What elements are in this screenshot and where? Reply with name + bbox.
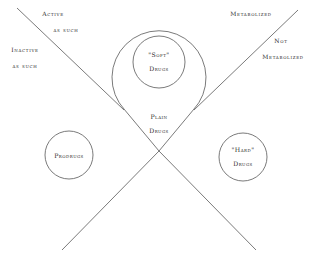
active-as-such-label-line2: as such xyxy=(52,26,78,33)
inactive-as-such-label-line1: Inactive xyxy=(11,46,38,53)
plain-drugs-label-line2: Drugs xyxy=(149,127,169,134)
hard-drugs-label-line2: Drugs xyxy=(233,160,253,167)
active-as-such-label-line1: Active xyxy=(41,10,64,17)
drug-classification-diagram: Plain Drugs "Soft" Drugs Prodrugs "Hard"… xyxy=(0,0,319,259)
diagram-canvas: Plain Drugs "Soft" Drugs Prodrugs "Hard"… xyxy=(0,0,319,259)
soft-drugs-label-line2: Drugs xyxy=(149,65,169,72)
hard-drugs-circle xyxy=(219,133,267,181)
prodrugs-label-line1: Prodrugs xyxy=(54,152,84,159)
soft-drugs-circle xyxy=(133,36,185,88)
axis-line-upper-left xyxy=(17,8,124,110)
not-metabolized-label-line1: Not xyxy=(274,37,287,44)
hard-drugs-label-line1: "Hard" xyxy=(232,146,255,153)
metabolized-label-line1: Metabolized xyxy=(230,10,272,17)
inactive-as-such-label-line2: as such xyxy=(11,62,37,69)
soft-drugs-label-line1: "Soft" xyxy=(148,51,169,58)
not-metabolized-label-line2: Metabolized xyxy=(262,53,304,60)
axis-line-upper-right xyxy=(194,10,298,110)
plain-drugs-label-line1: Plain xyxy=(150,113,167,120)
